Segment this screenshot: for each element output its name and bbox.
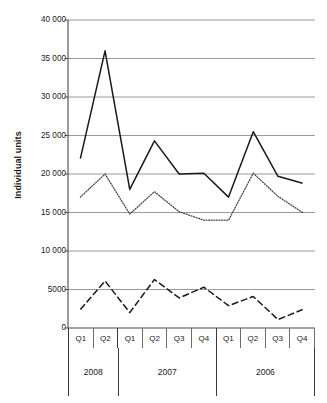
quarter-label-cell: Q2	[142, 328, 167, 348]
quarter-label-cell: Q3	[265, 328, 290, 348]
plot-svg	[68, 20, 315, 328]
data-series	[80, 51, 302, 320]
y-tick-label-30000: 30 000	[10, 93, 66, 101]
quarter-label-cell: Q1	[117, 328, 142, 348]
y-tick-label-40000: 40 000	[10, 16, 66, 24]
quarter-label-cell: Q4	[191, 328, 216, 348]
y-axis-tick-labels: 40 00035 00030 00025 00020 00015 00010 0…	[10, 0, 66, 403]
series-solid	[80, 51, 302, 197]
line-chart-figure: Individual units 40 00035 00030 00025 00…	[0, 0, 327, 403]
y-tick-label-5000: 5000	[10, 286, 66, 294]
year-label-cell: 2008	[68, 348, 118, 396]
y-tick-label-20000: 20 000	[10, 170, 66, 178]
quarter-label-cell: Q2	[240, 328, 265, 348]
year-label-row: 200820072006	[68, 348, 315, 396]
quarter-label-cell: Q2	[93, 328, 118, 348]
series-dotted	[80, 173, 302, 220]
year-label-cell: 2007	[118, 348, 216, 396]
y-tick-label-35000: 35 000	[10, 55, 66, 63]
quarter-label-cell: Q3	[166, 328, 191, 348]
quarter-label-row: Q1Q2Q1Q2Q3Q4Q1Q2Q3Q4	[68, 328, 315, 348]
y-tick-label-10000: 10 000	[10, 247, 66, 255]
quarter-label-cell: Q1	[68, 328, 93, 348]
y-tick-label-25000: 25 000	[10, 132, 66, 140]
quarter-label-cell: Q4	[289, 328, 315, 348]
plot-area	[68, 20, 315, 328]
quarter-label-cell: Q1	[216, 328, 241, 348]
year-label-cell: 2006	[216, 348, 315, 396]
series-dashed	[80, 279, 302, 319]
y-tick-label-0: 0	[10, 324, 66, 332]
y-tick-label-15000: 15 000	[10, 209, 66, 217]
x-axis-table: Q1Q2Q1Q2Q3Q4Q1Q2Q3Q4 200820072006	[68, 328, 315, 396]
